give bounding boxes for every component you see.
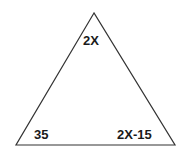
triangle-diagram: 2X 35 2X-15 (0, 0, 178, 159)
top-angle-label: 2X (83, 34, 99, 47)
bottom-right-angle-label: 2X-15 (117, 128, 152, 141)
bottom-left-angle-label: 35 (34, 128, 48, 141)
